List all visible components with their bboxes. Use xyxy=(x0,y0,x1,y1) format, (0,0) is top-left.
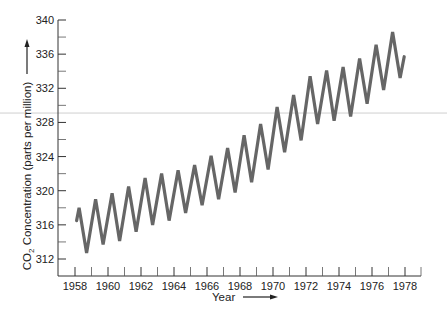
y-axis-title-rest: Concentration (parts per million) xyxy=(21,82,33,249)
x-tick-label: 1964 xyxy=(162,280,186,292)
svg-text:CO2 Concentration (parts per m: CO2 Concentration (parts per million) xyxy=(21,82,36,271)
x-tick-label: 1974 xyxy=(327,280,351,292)
y-tick-label: 336 xyxy=(36,48,54,60)
co2-series-line xyxy=(77,32,405,253)
x-tick-label: 1978 xyxy=(393,280,417,292)
x-axis-ticks: 1958196019621964196619681970197219741976… xyxy=(63,267,421,292)
y-tick-label: 312 xyxy=(36,253,54,265)
y-tick-label: 328 xyxy=(36,116,54,128)
x-tick-label: 1960 xyxy=(96,280,120,292)
x-tick-label: 1958 xyxy=(63,280,87,292)
axes xyxy=(58,20,421,276)
y-axis-title-main: CO xyxy=(21,253,33,270)
y-tick-label: 320 xyxy=(36,185,54,197)
x-tick-label: 1962 xyxy=(129,280,153,292)
y-axis-title: CO2 Concentration (parts per million) xyxy=(21,82,36,271)
y-tick-label: 324 xyxy=(36,151,54,163)
x-tick-label: 1976 xyxy=(360,280,384,292)
x-axis-title: Year xyxy=(212,291,235,303)
x-tick-label: 1972 xyxy=(294,280,318,292)
y-axis-ticks: 312316320324328332336340 xyxy=(36,14,66,265)
y-tick-label: 340 xyxy=(36,14,54,26)
y-axis-arrow-icon xyxy=(25,39,30,74)
x-tick-label: 1970 xyxy=(261,280,285,292)
x-axis-arrow-icon xyxy=(243,295,278,300)
co2-line-chart: 312316320324328332336340 195819601962196… xyxy=(0,0,447,318)
y-tick-label: 316 xyxy=(36,219,54,231)
y-tick-label: 332 xyxy=(36,82,54,94)
